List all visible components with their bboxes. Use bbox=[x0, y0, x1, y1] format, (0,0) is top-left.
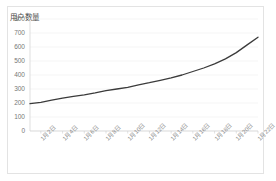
y-axis-tick-label: 400 bbox=[3, 71, 25, 78]
y-axis-tick-label: 600 bbox=[3, 43, 25, 50]
y-axis-tick-label: 300 bbox=[3, 85, 25, 92]
y-axis-tick-label: 500 bbox=[3, 57, 25, 64]
y-axis-tick-label: 200 bbox=[3, 99, 25, 106]
y-axis-tick-label: 800 bbox=[3, 15, 25, 22]
y-axis-tick-label: 0 bbox=[3, 127, 25, 134]
gridlines bbox=[30, 19, 258, 131]
y-axis-tick-label: 700 bbox=[3, 29, 25, 36]
y-axis-tick-label: 100 bbox=[3, 113, 25, 120]
line-chart-plot bbox=[0, 0, 275, 181]
